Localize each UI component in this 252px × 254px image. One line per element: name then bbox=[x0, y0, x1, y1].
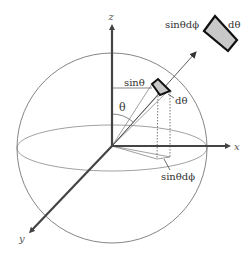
z-axis-label: z bbox=[108, 11, 115, 22]
small-area-patch bbox=[152, 79, 170, 95]
x-axis-label: x bbox=[234, 141, 240, 152]
big-patch-height-label: dθ bbox=[228, 19, 240, 30]
projection-leader bbox=[164, 159, 170, 170]
small-patch-sintheta-label: sinθ bbox=[124, 77, 145, 88]
projection-wedge bbox=[112, 146, 170, 159]
small-patch-dtheta-label: dθ bbox=[175, 95, 187, 106]
dotted-drop-lines bbox=[157, 92, 170, 159]
projection-label: sinθdϕ bbox=[161, 171, 195, 182]
y-axis bbox=[31, 146, 112, 231]
y-axis-label: y bbox=[18, 233, 25, 244]
dtheta-leader bbox=[168, 94, 174, 98]
spherical-solid-angle-diagram: z x y θ sinθ dθ sinθdϕ sinθdϕ dθ bbox=[0, 0, 252, 254]
theta-label: θ bbox=[119, 101, 126, 114]
big-patch-width-label: sinθdϕ bbox=[165, 19, 199, 30]
